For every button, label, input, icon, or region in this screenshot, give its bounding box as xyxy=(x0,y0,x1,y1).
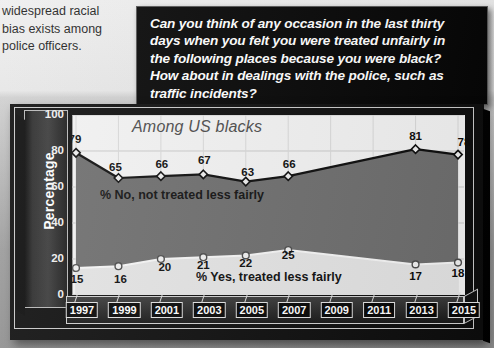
series-label-no: % No, not treated less fairly xyxy=(100,188,264,202)
x-tick-1997: 1997 xyxy=(66,302,98,318)
data-label-yes-1999: 16 xyxy=(114,273,127,285)
question-text: Can you think of any occasion in the las… xyxy=(150,15,479,102)
data-label-no-2001: 66 xyxy=(155,158,168,170)
data-label-no-2005: 63 xyxy=(241,166,254,178)
x-tick-1999: 1999 xyxy=(108,302,140,318)
caption-line-2: bias exists among xyxy=(2,21,128,39)
x-tick-2001: 2001 xyxy=(151,302,183,318)
data-label-yes-2001: 20 xyxy=(158,261,171,273)
data-label-yes-2013: 17 xyxy=(409,270,422,282)
data-label-no-1999: 65 xyxy=(109,161,122,173)
data-label-yes-2015: 18 xyxy=(452,267,465,279)
caption-line-1: widespread racial xyxy=(2,3,128,21)
y-tick-100: 100 xyxy=(30,108,64,120)
question-line-2: days when you felt you were treated unfa… xyxy=(150,32,479,49)
y-axis-ticks: 020406080100 xyxy=(24,110,68,308)
data-label-no-2013: 81 xyxy=(409,130,422,142)
y-tick-40: 40 xyxy=(30,216,64,228)
y-tick-80: 80 xyxy=(30,144,64,156)
question-line-4: How about in dealings with the police, s… xyxy=(150,67,479,84)
data-label-no-2007: 66 xyxy=(283,158,296,170)
data-label-no-2015: 78 xyxy=(458,136,471,148)
x-tick-2009: 2009 xyxy=(320,302,352,318)
x-tick-2015: 2015 xyxy=(448,302,480,318)
chart-slab-right-edge xyxy=(483,109,490,344)
x-tick-2011: 2011 xyxy=(363,302,395,318)
series-label-yes: % Yes, treated less fairly xyxy=(196,270,342,284)
data-label-no-2003: 67 xyxy=(198,154,211,166)
caption-line-3: police officers. xyxy=(2,38,128,56)
data-label-yes-2005: 22 xyxy=(239,257,252,269)
article-caption: widespread racial bias exists among poli… xyxy=(2,3,128,56)
question-line-3: the following places because you were bl… xyxy=(150,50,479,67)
x-tick-2013: 2013 xyxy=(405,302,437,318)
poster-background: widespread racial bias exists among poli… xyxy=(0,0,494,348)
chart-title: Among US blacks xyxy=(132,118,262,136)
data-label-yes-2003: 21 xyxy=(197,259,210,271)
question-banner: Can you think of any occasion in the las… xyxy=(136,6,488,105)
chart-container: Among US blacks % No, not treated less f… xyxy=(10,104,484,340)
x-tick-2003: 2003 xyxy=(193,302,225,318)
y-tick-0: 0 xyxy=(30,288,64,300)
x-tick-2007: 2007 xyxy=(278,302,310,318)
data-label-yes-2007: 25 xyxy=(282,249,295,261)
y-tick-20: 20 xyxy=(30,252,64,264)
data-label-no-1997: 79 xyxy=(69,133,82,145)
y-tick-60: 60 xyxy=(30,180,64,192)
question-line-5: traffic incidents? xyxy=(150,85,479,102)
x-tick-2005: 2005 xyxy=(236,302,268,318)
question-line-1: Can you think of any occasion in the las… xyxy=(150,15,479,32)
chart-plot-svg xyxy=(72,115,464,295)
data-label-yes-1997: 15 xyxy=(71,273,84,285)
